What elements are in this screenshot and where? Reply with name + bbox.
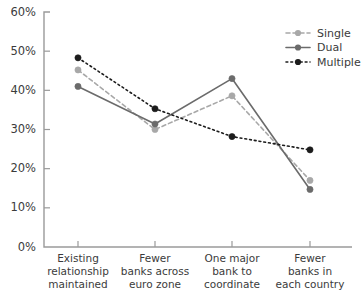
- data-point[interactable]: [75, 55, 81, 61]
- data-series-layer: [75, 55, 313, 193]
- series-line: [78, 70, 310, 180]
- data-point[interactable]: [307, 177, 313, 183]
- x-tick-label-line: Existing: [57, 252, 99, 264]
- line-chart: 0%10%20%30%40%50%60% Existingrelationshi…: [0, 0, 361, 296]
- legend-label: Multiple: [317, 56, 361, 69]
- data-point[interactable]: [229, 75, 235, 81]
- data-point[interactable]: [152, 106, 158, 112]
- x-tick-label-line: euro zone: [129, 278, 181, 290]
- series-line: [78, 79, 310, 190]
- x-axis-tick-marks: [78, 241, 310, 247]
- x-tick-label: Fewerbanks ineach country: [276, 252, 345, 290]
- y-tick-label: 0%: [18, 240, 36, 254]
- y-axis-tick-marks: [44, 51, 50, 208]
- series-single: [75, 67, 313, 184]
- data-point[interactable]: [75, 83, 81, 89]
- x-axis-tick-labels: ExistingrelationshipmaintainedFewerbanks…: [47, 252, 344, 290]
- x-tick-label-line: One major: [204, 252, 260, 264]
- legend-marker: [295, 44, 301, 50]
- data-point[interactable]: [229, 93, 235, 99]
- y-tick-label: 40%: [10, 83, 36, 97]
- chart-container: 0%10%20%30%40%50%60% Existingrelationshi…: [0, 0, 361, 296]
- series-dual: [75, 75, 313, 192]
- y-axis-tick-labels: 0%10%20%30%40%50%60%: [10, 5, 36, 254]
- y-tick-label: 20%: [10, 161, 36, 175]
- series-multiple: [75, 55, 313, 153]
- x-tick-label: Existingrelationshipmaintained: [47, 252, 109, 290]
- y-tick-label: 10%: [10, 200, 36, 214]
- data-point[interactable]: [307, 186, 313, 192]
- x-tick-label-line: each country: [276, 278, 345, 290]
- x-tick-label-line: bank to: [212, 265, 252, 277]
- x-tick-label-line: banks across: [121, 265, 189, 277]
- data-point[interactable]: [307, 147, 313, 153]
- legend-label: Single: [317, 27, 351, 40]
- data-point[interactable]: [229, 133, 235, 139]
- x-tick-label-line: relationship: [47, 265, 109, 277]
- legend-item-dual[interactable]: Dual: [286, 41, 342, 54]
- y-tick-label: 50%: [10, 44, 36, 58]
- data-point[interactable]: [75, 67, 81, 73]
- x-tick-label-line: maintained: [48, 278, 107, 290]
- y-tick-label: 60%: [10, 5, 36, 19]
- x-tick-label-line: banks in: [288, 265, 332, 277]
- legend-item-single[interactable]: Single: [286, 27, 351, 40]
- chart-legend: SingleDualMultiple: [286, 27, 361, 69]
- x-tick-label-line: Fewer: [294, 252, 326, 264]
- x-tick-label: Fewerbanks acrosseuro zone: [121, 252, 189, 290]
- legend-item-multiple[interactable]: Multiple: [286, 56, 361, 69]
- legend-marker: [295, 59, 301, 65]
- x-tick-label-line: coordinate: [204, 278, 260, 290]
- data-point[interactable]: [152, 121, 158, 127]
- x-tick-label-line: Fewer: [139, 252, 171, 264]
- legend-label: Dual: [317, 41, 342, 54]
- y-tick-label: 30%: [10, 122, 36, 136]
- x-tick-label: One majorbank tocoordinate: [204, 252, 260, 290]
- legend-marker: [295, 30, 301, 36]
